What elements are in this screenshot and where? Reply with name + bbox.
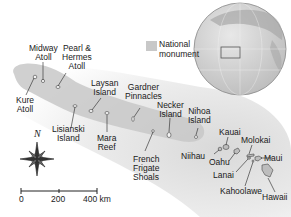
mara-reef-marker [105,112,109,115]
legend-swatch [146,41,157,51]
scale-label-200: 200 [51,194,65,204]
label-gardner-pinnacles: GardnerPinnacles [125,83,162,101]
label-kure-atoll: KureAtoll [16,96,34,114]
scale-label-0: 0 [19,194,24,204]
label-oahu: Oahu [209,158,230,167]
french-frigate-marker [152,130,155,133]
map-canvas [0,0,291,217]
label-mara-reef: MaraReef [97,134,116,152]
legend-line-1: National [159,39,199,49]
necker-marker [167,133,171,138]
kahoolawe-shape [252,160,254,162]
label-kauai: Kauai [219,128,241,137]
label-hawaii: Hawaii [262,193,288,202]
label-molokai: Molokai [241,136,270,145]
nihoa-marker [195,136,198,139]
label-nihoa-island: NihoaIsland [188,107,211,125]
gardner-marker [132,117,134,122]
label-kahoolawe: Kahoolawe [220,187,262,196]
compass-north-label: N [34,128,41,139]
compass-rose-icon [20,142,54,176]
globe-inset [194,3,286,95]
label-maui: Maui [264,154,282,163]
lisianski-marker [73,105,77,108]
kauai-shape [223,145,229,150]
scale-label-400: 400 km [83,194,111,204]
label-niihau: Niihau [181,152,205,161]
label-lisianski-island: LisianskiIsland [52,125,85,143]
lanai-shape [248,157,251,159]
label-pearl-hermes-atoll: Pearl &HermesAtoll [62,44,92,71]
label-french-frigate-shoals: FrenchFrigateShoals [133,155,159,182]
label-laysan-island: LaysanIsland [91,79,118,97]
legend-label: National monument [159,39,199,59]
label-necker-island: NeckerIsland [157,101,184,119]
legend-line-2: monument [159,49,199,59]
label-midway-atoll: MidwayAtoll [29,44,58,62]
label-lanai: Lanai [213,171,234,180]
